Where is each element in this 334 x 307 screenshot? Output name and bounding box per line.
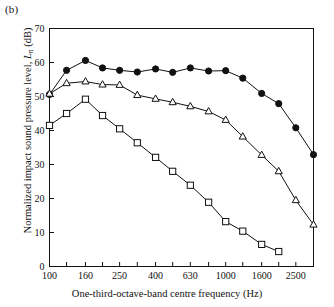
svg-text:1000: 1000 <box>216 270 236 281</box>
data-point-open-triangle <box>134 91 141 97</box>
data-point-open-square <box>206 199 212 205</box>
svg-text:1600: 1600 <box>252 270 272 281</box>
svg-text:2500: 2500 <box>286 270 306 281</box>
data-point-open-square <box>117 126 123 132</box>
data-point-open-triangle <box>292 196 299 202</box>
svg-text:400: 400 <box>148 270 163 281</box>
svg-text:40: 40 <box>35 125 45 136</box>
data-point-open-square <box>240 228 246 234</box>
data-point-open-square <box>170 168 176 174</box>
y-axis-ticks: 010203040506070 <box>35 23 55 272</box>
data-point-filled-circle <box>117 67 123 73</box>
data-point-filled-circle <box>259 90 265 96</box>
data-point-filled-circle <box>206 68 212 74</box>
data-point-filled-circle <box>187 65 193 71</box>
plot-frame <box>50 29 314 267</box>
data-point-filled-circle <box>170 69 176 75</box>
svg-text:100: 100 <box>42 270 57 281</box>
data-point-filled-circle <box>63 67 69 73</box>
data-point-open-square <box>134 140 140 146</box>
figure-panel: (b) Normalized impact sound pressure lev… <box>0 0 334 307</box>
data-point-filled-circle <box>276 101 282 107</box>
data-point-filled-circle <box>293 125 299 131</box>
data-point-open-triangle <box>63 79 70 85</box>
data-point-filled-circle <box>134 69 140 75</box>
x-axis-ticks: 100160250400630100016002500 <box>42 262 314 281</box>
svg-text:20: 20 <box>35 193 45 204</box>
data-point-open-square <box>82 96 88 102</box>
svg-text:160: 160 <box>78 270 93 281</box>
data-point-open-square <box>99 112 105 118</box>
svg-text:250: 250 <box>112 270 127 281</box>
chart-plot: 010203040506070 100160250400630100016002… <box>0 0 334 307</box>
data-point-open-square <box>259 241 265 247</box>
svg-text:70: 70 <box>35 23 45 34</box>
data-point-filled-circle <box>82 57 88 63</box>
svg-text:50: 50 <box>35 91 45 102</box>
data-point-open-square <box>152 154 158 160</box>
data-point-open-square <box>63 110 69 116</box>
svg-text:30: 30 <box>35 159 45 170</box>
data-point-open-square <box>276 248 282 254</box>
data-point-filled-circle <box>240 75 246 81</box>
svg-text:630: 630 <box>183 270 198 281</box>
svg-text:60: 60 <box>35 57 45 68</box>
data-series-group <box>46 57 317 254</box>
data-point-filled-circle <box>99 65 105 71</box>
data-point-open-square <box>187 182 193 188</box>
data-point-filled-circle <box>310 152 316 158</box>
data-point-open-square <box>46 122 52 128</box>
svg-text:10: 10 <box>35 227 45 238</box>
data-point-open-square <box>223 219 229 225</box>
data-point-filled-circle <box>223 68 229 74</box>
data-point-filled-circle <box>152 66 158 72</box>
data-point-open-triangle <box>82 78 89 84</box>
data-point-open-triangle <box>116 81 123 87</box>
